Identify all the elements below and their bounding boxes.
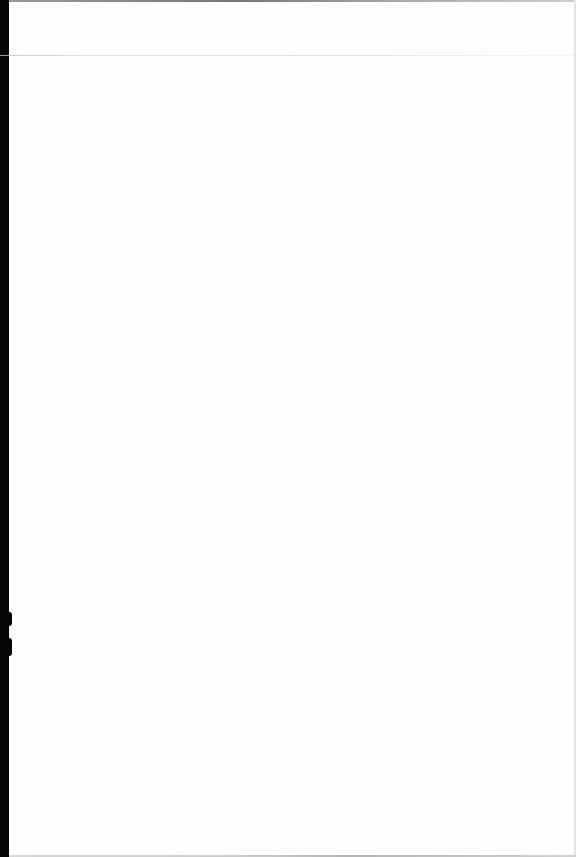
scan-top-edge	[9, 0, 576, 2]
scan-margin-notch	[5, 612, 12, 626]
document-page	[0, 0, 576, 857]
scan-margin-notch	[5, 638, 12, 656]
scan-left-margin	[0, 0, 9, 857]
faint-horizontal-rule	[0, 55, 576, 56]
